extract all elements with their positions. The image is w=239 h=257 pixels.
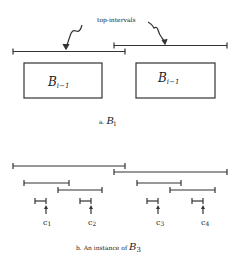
diagram: top-intervals Bi−1 Bi−1 a. Bi c1 c2 c3 c…: [0, 0, 239, 257]
interval-level2: [24, 180, 215, 193]
point-label-c1: c1: [43, 218, 51, 227]
box-left: [24, 63, 102, 98]
point-arrows-icon: [46, 207, 203, 214]
point-label-c2: c2: [88, 218, 96, 227]
interval-level1-right: [114, 169, 227, 175]
box-right-label: Bi−1: [157, 71, 179, 86]
top-interval-right: [114, 43, 227, 49]
box-left-label: Bi−1: [47, 75, 69, 90]
point-label-c4: c4: [201, 218, 209, 227]
caption-b: b. An instance of B3: [76, 241, 141, 254]
arrowheads: [44, 205, 205, 209]
annotation-label: top-intervals: [97, 16, 135, 24]
interval-level1-left: [13, 163, 125, 169]
top-interval-left: [13, 49, 125, 55]
point-label-c3: c3: [156, 218, 164, 227]
interval-level3: [35, 198, 203, 204]
caption-a: a. Bi: [99, 115, 117, 128]
